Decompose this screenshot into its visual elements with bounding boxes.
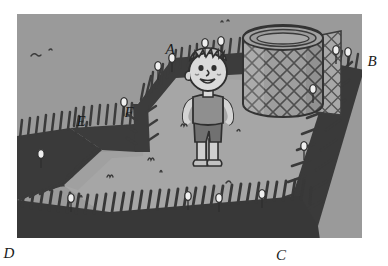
boy-shoe-left bbox=[193, 160, 208, 166]
label-B: B bbox=[367, 53, 376, 69]
boy-ear bbox=[185, 71, 190, 80]
boy-shoe-right bbox=[207, 160, 222, 166]
label-D: D bbox=[3, 245, 15, 261]
boy-eye-right bbox=[211, 65, 216, 71]
illustration-stage: A E F B C D bbox=[0, 0, 388, 266]
wire-mesh-cylinder bbox=[240, 22, 344, 122]
label-A: A bbox=[164, 41, 175, 57]
label-E: E bbox=[75, 113, 85, 129]
boy-shirt bbox=[193, 95, 223, 126]
label-C: C bbox=[276, 247, 287, 263]
scene-svg: A E F B C D bbox=[0, 0, 388, 266]
boy-eye-left bbox=[198, 65, 203, 71]
label-F: F bbox=[123, 104, 134, 120]
cylinder-top-rim-inner bbox=[257, 33, 309, 44]
